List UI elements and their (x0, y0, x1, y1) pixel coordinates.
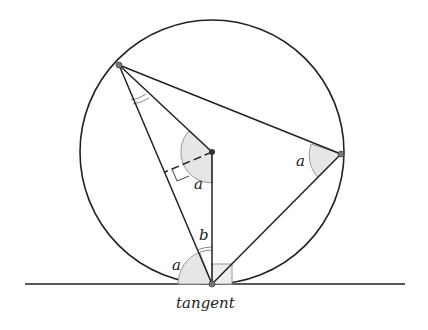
label-a-left: a (172, 256, 181, 274)
label-a-right: a (296, 152, 305, 170)
chord-topleft-right (119, 65, 341, 154)
label-a-center: a (194, 175, 203, 193)
angle-b-arc-2 (199, 247, 213, 250)
point-center (209, 149, 215, 155)
diagram: a b a a tangent (0, 0, 428, 330)
point-top-left (116, 62, 122, 68)
label-tangent: tangent (176, 294, 236, 312)
angle-a-tangent (178, 252, 212, 284)
angle-b-arc (200, 250, 212, 252)
radius-topleft (119, 65, 212, 152)
label-b: b (199, 226, 209, 244)
right-angle-marker-chord (172, 169, 189, 181)
point-tangent (209, 281, 215, 287)
chord-right-tangent (212, 154, 341, 284)
point-right (338, 151, 344, 157)
angle-a-right (309, 144, 341, 177)
